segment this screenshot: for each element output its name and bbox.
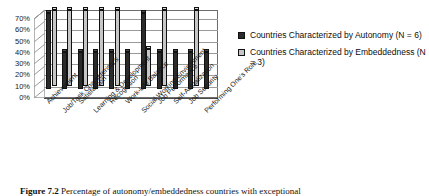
caption-number: Figure 7.2: [20, 186, 59, 196]
caption-text: Percentage of autonomy/embeddedness coun…: [61, 186, 301, 196]
bar-embeddedness: [52, 10, 57, 86]
y-tick-label: 70%: [15, 15, 30, 23]
y-tick-label: 60%: [15, 26, 30, 34]
legend: Countries Characterized by Autonomy (N =…: [238, 30, 428, 74]
legend-label: Countries Characterized by Embeddedness …: [250, 47, 428, 68]
legend-label: Countries Characterized by Autonomy (N =…: [250, 30, 422, 41]
y-tick-label: 50%: [15, 38, 30, 46]
legend-swatch-autonomy: [238, 32, 245, 39]
figure-caption: Figure 7.2 Percentage of autonomy/embedd…: [20, 186, 429, 196]
y-tick-label: 20%: [15, 71, 30, 79]
bar-group: [107, 10, 123, 89]
legend-swatch-embeddedness: [238, 49, 245, 56]
y-tick-label: 30%: [15, 60, 30, 68]
figure-container: 70%60%50%40%30%20%10%0% AchievementJob/T…: [0, 0, 429, 196]
legend-item: Countries Characterized by Embeddedness …: [238, 47, 428, 68]
y-axis: 70%60%50%40%30%20%10%0%: [0, 10, 32, 98]
bar-group: [44, 10, 60, 89]
bar-embeddedness: [162, 10, 167, 86]
y-tick-label: 10%: [15, 83, 30, 91]
bar-embeddedness: [115, 10, 120, 86]
legend-item: Countries Characterized by Autonomy (N =…: [238, 30, 428, 41]
bar-embeddedness: [83, 10, 88, 86]
bar-autonomy: [46, 13, 51, 89]
x-axis-labels: AchievementJob/Task CharacteristicsSatis…: [0, 98, 240, 178]
bar-autonomy: [78, 52, 83, 89]
y-tick-label: 40%: [15, 49, 30, 57]
